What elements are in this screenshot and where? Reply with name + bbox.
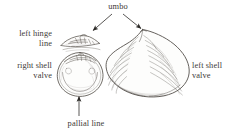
umbo-arrow-left <box>93 14 112 31</box>
umbo-leader-lines <box>93 14 141 31</box>
umbo-arrow-right <box>123 14 141 29</box>
illustration-left-shell-valve <box>106 30 189 97</box>
label-umbo: umbo <box>86 2 150 12</box>
illustration-hinge-line <box>61 35 100 52</box>
label-right-shell-valve: right shell valve <box>0 61 52 80</box>
label-left-shell-valve: left shell valve <box>192 61 232 80</box>
bivalve-anatomy-diagram: umbo left hinge line right shell valve l… <box>0 0 232 136</box>
illustration-right-shell-valve <box>57 53 103 97</box>
label-left-hinge-line: left hinge line <box>0 29 52 48</box>
label-pallial-line: pallial line <box>55 119 117 129</box>
